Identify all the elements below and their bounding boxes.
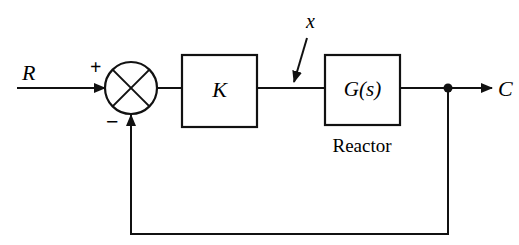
plant-caption: Reactor xyxy=(332,135,392,156)
plant-label: G(s) xyxy=(344,77,381,101)
minus-sign: − xyxy=(106,109,119,134)
output-label: C xyxy=(498,76,513,101)
disturbance-arrow xyxy=(294,38,307,82)
controller-label: K xyxy=(211,77,228,102)
block-diagram: R + − K x G(s) Reactor C xyxy=(0,0,519,245)
summing-junction xyxy=(105,62,157,114)
input-label: R xyxy=(21,60,36,85)
plus-sign: + xyxy=(90,56,101,78)
disturbance-label: x xyxy=(305,10,315,32)
